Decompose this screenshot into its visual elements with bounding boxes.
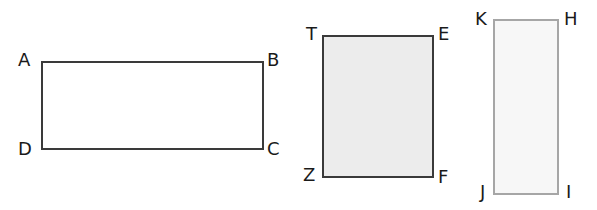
rectangle-tefz bbox=[322, 35, 434, 178]
vertex-label-h: H bbox=[564, 10, 578, 28]
vertex-label-e: E bbox=[438, 25, 449, 43]
vertex-label-t: T bbox=[306, 25, 317, 43]
vertex-label-f: F bbox=[438, 168, 448, 186]
vertex-label-j: J bbox=[480, 183, 485, 201]
rectangle-khij bbox=[493, 19, 559, 195]
vertex-label-c: C bbox=[267, 140, 280, 158]
vertex-label-b: B bbox=[267, 51, 279, 69]
vertex-label-z: Z bbox=[303, 166, 315, 184]
rectangle-abcd bbox=[41, 61, 264, 150]
vertex-label-a: A bbox=[18, 51, 30, 69]
vertex-label-k: K bbox=[475, 10, 487, 28]
vertex-label-i: I bbox=[566, 183, 571, 201]
vertex-label-d: D bbox=[18, 140, 32, 158]
